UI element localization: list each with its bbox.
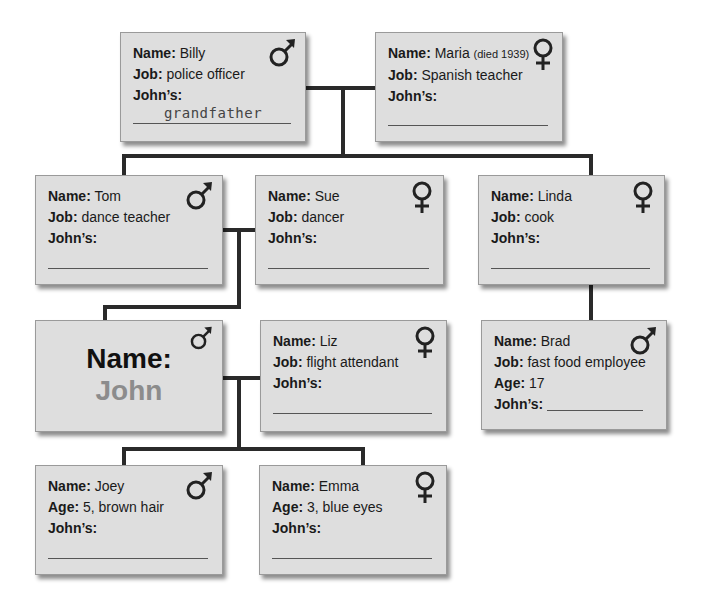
connector-grandparents-down: [341, 86, 345, 158]
female-icon: [410, 325, 440, 359]
name-value: Emma: [319, 478, 359, 494]
card-john: Name: John: [35, 320, 223, 432]
johns-answer-line[interactable]: [388, 125, 548, 126]
connector-children-bar: [122, 154, 593, 158]
job-value: cook: [524, 209, 554, 225]
card-maria: Name: Maria (died 1939) Job: Spanish tea…: [375, 32, 563, 142]
johns-answer-line[interactable]: [48, 558, 208, 559]
death-note: (died 1939): [474, 48, 530, 60]
card-sue: Name: Sue Job: dancer John’s:: [255, 175, 444, 285]
connector-to-john: [103, 305, 107, 321]
johns-label: John’s:: [268, 228, 431, 249]
card-brad: Name: Brad Job: fast food employee Age: …: [481, 320, 667, 430]
name-value: Sue: [315, 188, 340, 204]
johns-label: John’s:: [48, 518, 210, 539]
card-emma: Name: Emma Age: 3, blue eyes John’s:: [259, 465, 447, 575]
female-icon: [410, 470, 440, 504]
male-icon: [267, 37, 297, 71]
connector-to-linda: [589, 154, 593, 176]
job-row: Job: Spanish teacher: [388, 65, 550, 86]
female-icon: [407, 180, 437, 214]
johns-label: John’s:: [133, 85, 293, 106]
connector-to-john-bar: [103, 305, 241, 309]
card-liz: Name: Liz Job: flight attendant John’s:: [260, 320, 447, 432]
johns-answer: grandfather: [121, 105, 305, 121]
card-tom: Name: Tom Job: dance teacher John’s:: [35, 175, 223, 285]
johns-label: John’s:: [491, 228, 652, 249]
johns-answer-line[interactable]: [547, 410, 643, 411]
johns-answer-line[interactable]: [133, 123, 291, 124]
card-joey: Name: Joey Age: 5, brown hair John’s:: [35, 465, 223, 575]
name-value: Maria: [435, 45, 470, 61]
age-value: 3, blue eyes: [307, 499, 383, 515]
job-value: dancer: [301, 209, 344, 225]
connector-grandchildren-bar: [122, 447, 365, 451]
name-value: Tom: [94, 188, 120, 204]
johns-answer-line[interactable]: [273, 413, 432, 414]
job-value: flight attendant: [306, 354, 398, 370]
age-value: 5, brown hair: [83, 499, 164, 515]
job-value: dance teacher: [81, 209, 170, 225]
male-icon: [184, 470, 214, 504]
connector-to-joey: [122, 447, 126, 466]
card-linda: Name: Linda Job: cook John’s:: [478, 175, 665, 285]
johns-label: John’s:: [388, 86, 550, 107]
connector-linda-brad: [589, 285, 593, 321]
age-value: 17: [529, 375, 545, 391]
johns-label: John’s:: [48, 228, 210, 249]
connector-to-tom: [122, 154, 126, 176]
male-icon: [184, 180, 214, 214]
female-icon: [628, 180, 658, 214]
male-icon: [628, 325, 658, 359]
female-icon: [528, 37, 558, 71]
connector-tom-sue-down: [237, 228, 241, 309]
johns-answer-line[interactable]: [491, 268, 650, 269]
john-name-value: John: [48, 375, 210, 407]
johns-answer-line[interactable]: [48, 268, 208, 269]
job-value: Spanish teacher: [421, 67, 522, 83]
name-value: Liz: [320, 333, 338, 349]
male-icon: [188, 325, 214, 353]
job-value: police officer: [166, 66, 244, 82]
name-value: Billy: [180, 45, 206, 61]
name-value: Joey: [95, 478, 125, 494]
age-row: Age: 17: [494, 373, 654, 394]
card-billy: Name: Billy Job: police officer John’s: …: [120, 32, 306, 142]
connector-billy-maria: [305, 86, 375, 90]
johns-row: John’s:: [494, 394, 654, 415]
name-value: Brad: [541, 333, 571, 349]
name-row: Name: Maria (died 1939): [388, 43, 550, 65]
john-name-label: Name:: [48, 343, 210, 375]
connector-to-emma: [361, 447, 365, 466]
connector-john-liz-down: [237, 376, 241, 451]
connector-john-liz: [222, 376, 260, 380]
name-value: Linda: [538, 188, 572, 204]
johns-label: John’s:: [272, 518, 434, 539]
johns-label: John’s:: [273, 373, 434, 394]
johns-answer-line[interactable]: [272, 558, 432, 559]
johns-answer-line[interactable]: [268, 268, 429, 269]
